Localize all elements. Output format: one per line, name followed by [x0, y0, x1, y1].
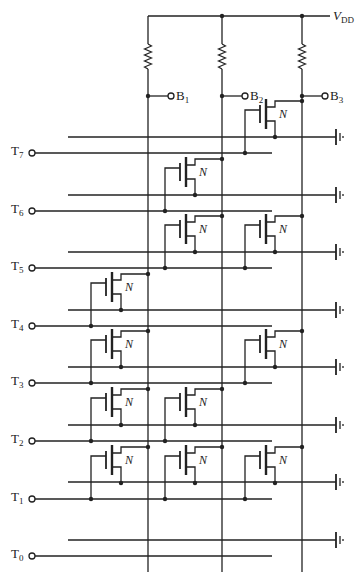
word-input-terminal — [29, 438, 35, 444]
word-label-T3: T3 — [11, 374, 23, 390]
transistor-type-label: N — [199, 454, 207, 466]
transistor-source — [112, 467, 121, 483]
word-label-T6: T6 — [11, 202, 23, 218]
source-junction — [193, 193, 197, 197]
transistor-source — [266, 236, 275, 252]
word-input-terminal — [29, 323, 35, 329]
gate-junction — [89, 439, 93, 443]
vdd-label: VDD — [333, 9, 354, 25]
gate-lead — [245, 340, 260, 383]
word-label-T5: T5 — [11, 259, 23, 275]
source-junction — [119, 365, 123, 369]
gate-junction — [163, 497, 167, 501]
gate-lead — [165, 398, 180, 441]
gate-lead — [91, 283, 106, 326]
gate-junction — [89, 381, 93, 385]
transistor-type-label: N — [199, 223, 207, 235]
gate-junction — [243, 497, 247, 501]
gate-lead — [165, 225, 180, 268]
transistor-source — [186, 409, 195, 425]
source-junction — [273, 135, 277, 139]
bit-output-terminal — [168, 93, 174, 99]
transistor-source — [112, 351, 121, 367]
bit-output-terminal — [242, 93, 248, 99]
word-input-terminal — [29, 380, 35, 386]
source-junction — [273, 481, 277, 485]
word-input-terminal — [29, 553, 35, 559]
bit-output-terminal — [322, 93, 328, 99]
transistor-type-label: N — [125, 454, 133, 466]
transistor-source — [186, 179, 195, 195]
transistor-source — [112, 409, 121, 425]
transistor-source — [112, 294, 121, 310]
gate-junction — [163, 209, 167, 213]
transistor-type-label: N — [279, 108, 287, 120]
transistor-source — [186, 467, 195, 483]
word-label-T1: T1 — [11, 490, 23, 506]
word-input-terminal — [29, 208, 35, 214]
gate-lead — [165, 168, 180, 211]
pullup-resistor-2 — [219, 44, 226, 69]
gate-junction — [163, 266, 167, 270]
source-junction — [193, 250, 197, 254]
transistor-source — [266, 467, 275, 483]
transistor-source — [266, 351, 275, 367]
gate-lead — [91, 456, 106, 499]
source-junction — [193, 481, 197, 485]
gate-junction — [163, 439, 167, 443]
word-label-T0: T0 — [11, 547, 23, 563]
word-input-terminal — [29, 150, 35, 156]
word-label-T2: T2 — [11, 432, 23, 448]
bit-label-B2: B2 — [250, 89, 263, 105]
transistor-source — [266, 121, 275, 137]
word-label-T4: T4 — [11, 317, 23, 333]
source-junction — [273, 365, 277, 369]
source-junction — [273, 250, 277, 254]
transistor-type-label: N — [279, 454, 287, 466]
bit-label-B1: B1 — [176, 89, 189, 105]
transistor-type-label: N — [125, 396, 133, 408]
gate-lead — [245, 225, 260, 268]
word-input-terminal — [29, 496, 35, 502]
gate-junction — [243, 266, 247, 270]
gate-lead — [245, 110, 260, 153]
source-junction — [119, 423, 123, 427]
word-input-terminal — [29, 265, 35, 271]
gate-lead — [91, 398, 106, 441]
transistor-type-label: N — [125, 281, 133, 293]
pullup-resistor-3 — [299, 44, 306, 69]
bit-label-B3: B3 — [330, 89, 343, 105]
gate-lead — [165, 456, 180, 499]
pullup-resistor-1 — [145, 44, 152, 69]
gate-junction — [243, 151, 247, 155]
gate-lead — [245, 456, 260, 499]
transistor-source — [186, 236, 195, 252]
gate-junction — [89, 497, 93, 501]
transistor-type-label: N — [279, 338, 287, 350]
gate-lead — [91, 340, 106, 383]
gate-junction — [89, 324, 93, 328]
source-junction — [193, 423, 197, 427]
transistor-type-label: N — [125, 338, 133, 350]
source-junction — [119, 308, 123, 312]
word-label-T7: T7 — [11, 144, 23, 160]
transistor-type-label: N — [279, 223, 287, 235]
gate-junction — [243, 381, 247, 385]
transistor-type-label: N — [199, 396, 207, 408]
source-junction — [119, 481, 123, 485]
transistor-type-label: N — [199, 166, 207, 178]
